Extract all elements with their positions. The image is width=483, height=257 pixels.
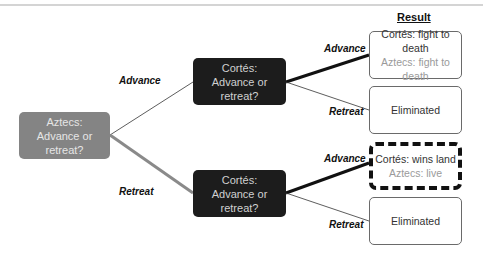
result-line-aztecs: Aztecs: live xyxy=(389,166,442,180)
node-text: retreat? xyxy=(46,143,84,157)
result-line-cortes: Cortés: wins land xyxy=(375,152,456,166)
result-box-eliminated-top: Eliminated xyxy=(369,86,462,134)
node-text: retreat? xyxy=(221,201,259,215)
result-box-fight-to-death: Cortés: fight to death Aztecs: fight to … xyxy=(369,31,462,79)
edge-root-advance xyxy=(110,82,193,135)
node-text: Cortés: xyxy=(222,61,257,75)
node-text: Advance or xyxy=(212,75,268,89)
node-text: Advance or xyxy=(212,187,268,201)
decision-node-cortes-bottom: Cortés: Advance or retreat? xyxy=(193,170,286,217)
edge-label-root-advance: Advance xyxy=(119,75,161,86)
edge-root-retreat xyxy=(110,135,193,193)
node-text: Aztecs: xyxy=(46,115,82,129)
edge-label-bottom-retreat: Retreat xyxy=(329,219,363,230)
edge-bottom-retreat xyxy=(286,193,369,221)
root-node-aztecs: Aztecs: Advance or retreat? xyxy=(19,112,110,159)
result-line: Eliminated xyxy=(391,214,440,228)
edge-label-bottom-advance: Advance xyxy=(324,153,366,164)
result-line-aztecs: Aztecs: fight to death xyxy=(370,55,461,83)
node-text: Advance or xyxy=(37,129,93,143)
result-header: Result xyxy=(397,11,431,23)
edge-top-advance xyxy=(286,55,369,82)
node-text: retreat? xyxy=(221,89,259,103)
result-box-eliminated-bottom: Eliminated xyxy=(369,197,462,245)
result-line: Eliminated xyxy=(391,103,440,117)
edge-label-root-retreat: Retreat xyxy=(119,186,153,197)
edge-label-top-retreat: Retreat xyxy=(329,106,363,117)
edge-bottom-advance xyxy=(286,163,369,193)
result-line-cortes: Cortés: fight to death xyxy=(370,27,461,55)
edge-label-top-advance: Advance xyxy=(324,43,366,54)
result-box-wins-land-highlighted: Cortés: wins land Aztecs: live xyxy=(369,142,462,190)
node-text: Cortés: xyxy=(222,173,257,187)
decision-node-cortes-top: Cortés: Advance or retreat? xyxy=(193,58,286,105)
